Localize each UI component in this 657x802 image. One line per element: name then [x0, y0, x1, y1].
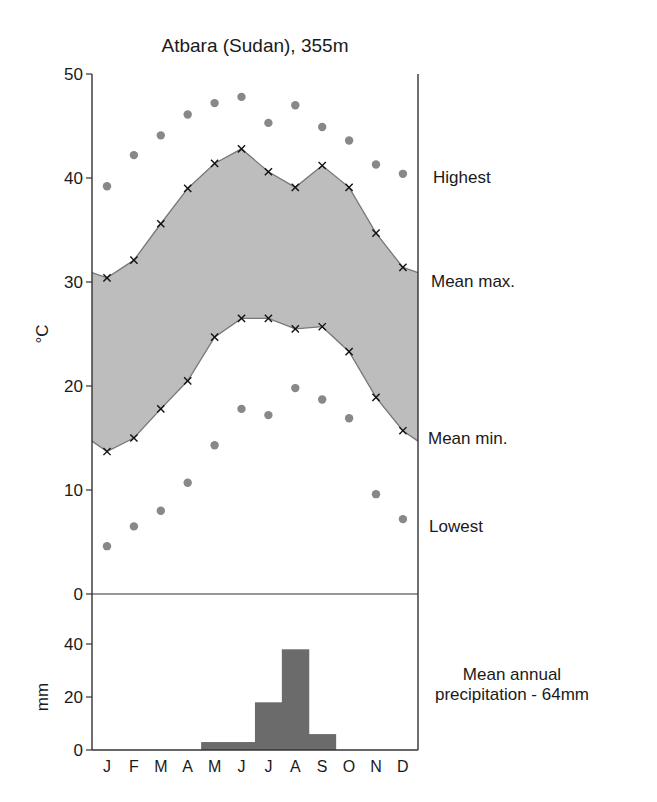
- lowest-point: [345, 414, 353, 422]
- climate-chart: 0102030405002040 Atbara (Sudan), 355m °C…: [0, 0, 657, 802]
- precip-note-line1: Mean annual: [463, 665, 561, 684]
- precip-bar-6: [255, 702, 282, 750]
- month-label: S: [317, 758, 328, 775]
- highest-point: [291, 101, 299, 109]
- precip-bar-7: [282, 649, 309, 750]
- highest-point: [157, 131, 165, 139]
- lowest-point: [103, 542, 111, 550]
- lowest-point: [237, 405, 245, 413]
- lowest-point: [264, 411, 272, 419]
- precip-bar-4: [201, 742, 228, 750]
- highest-point: [318, 123, 326, 131]
- series-label-mean-min: Mean min.: [428, 429, 507, 448]
- month-label: A: [290, 758, 301, 775]
- temperature-range-band: [92, 149, 418, 452]
- precip-bar-8: [309, 734, 336, 750]
- axis-ticks: 0102030405002040: [64, 65, 92, 760]
- highest-point: [237, 93, 245, 101]
- month-label: F: [129, 758, 139, 775]
- series-label-lowest: Lowest: [429, 517, 483, 536]
- month-label: D: [397, 758, 409, 775]
- month-label: J: [103, 758, 111, 775]
- series-labels: HighestMean max.Mean min.Lowest: [428, 168, 515, 536]
- lowest-point: [210, 441, 218, 449]
- month-label: M: [154, 758, 167, 775]
- precip-bar-5: [228, 742, 255, 750]
- lowest-point: [372, 490, 380, 498]
- chart-title: Atbara (Sudan), 355m: [162, 35, 349, 56]
- month-labels: JFMAMJJASOND: [103, 758, 409, 775]
- series-label-mean-max: Mean max.: [431, 272, 515, 291]
- month-label: J: [238, 758, 246, 775]
- month-label: O: [343, 758, 355, 775]
- month-label: A: [182, 758, 193, 775]
- temp-tick-label: 10: [64, 481, 83, 500]
- temp-tick-label: 20: [64, 377, 83, 396]
- precipitation-axis-title: mm: [33, 683, 52, 711]
- precip-tick-label: 40: [64, 635, 83, 654]
- precip-note-line2: precipitation - 64mm: [435, 685, 589, 704]
- mean-range-band: [92, 149, 418, 452]
- lowest-point: [130, 522, 138, 530]
- precip-tick-label: 0: [74, 741, 83, 760]
- highest-point: [103, 182, 111, 190]
- highest-point: [399, 170, 407, 178]
- temp-tick-label: 40: [64, 169, 83, 188]
- month-label: N: [370, 758, 382, 775]
- highest-point: [184, 110, 192, 118]
- lowest-point: [318, 395, 326, 403]
- highest-point: [345, 136, 353, 144]
- month-label: J: [264, 758, 272, 775]
- series-label-highest: Highest: [433, 168, 491, 187]
- temperature-axis-title: °C: [33, 324, 52, 343]
- lowest-point: [399, 515, 407, 523]
- highest-point: [130, 151, 138, 159]
- lowest-point: [291, 384, 299, 392]
- temp-tick-label: 0: [74, 585, 83, 604]
- temp-tick-label: 50: [64, 65, 83, 84]
- highest-point: [372, 160, 380, 168]
- highest-point: [264, 119, 272, 127]
- lowest-point: [184, 479, 192, 487]
- lowest-point: [157, 507, 165, 515]
- precipitation-bars: [201, 649, 336, 750]
- temp-tick-label: 30: [64, 273, 83, 292]
- month-label: M: [208, 758, 221, 775]
- precip-tick-label: 20: [64, 688, 83, 707]
- highest-point: [210, 99, 218, 107]
